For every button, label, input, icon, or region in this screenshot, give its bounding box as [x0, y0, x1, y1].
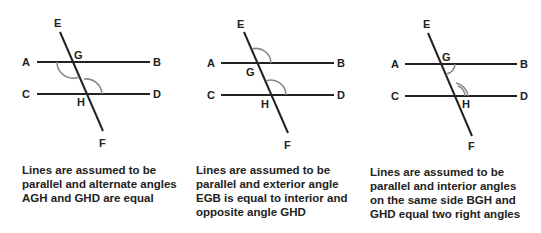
panel-interior: E A G B C H D F	[391, 18, 528, 152]
label-a: A	[22, 56, 30, 68]
label-c: C	[207, 89, 215, 101]
arc-angle-bgh	[446, 64, 455, 74]
caption-exterior: Lines are assumed to be parallel and ext…	[196, 163, 347, 219]
label-g: G	[74, 49, 83, 61]
label-f: F	[284, 139, 291, 151]
panel-exterior: E A G B C H D F	[207, 18, 345, 151]
label-f: F	[468, 140, 475, 152]
transversal-ef	[428, 33, 472, 136]
label-b: B	[520, 58, 528, 70]
label-h: H	[261, 98, 269, 110]
label-c: C	[391, 90, 399, 102]
label-a: A	[391, 58, 399, 70]
label-h: H	[77, 96, 85, 108]
label-g: G	[246, 66, 255, 78]
transversal-ef	[244, 32, 288, 133]
label-e: E	[237, 18, 244, 30]
label-b: B	[337, 57, 345, 69]
label-g: G	[442, 51, 451, 63]
label-d: D	[520, 90, 528, 102]
caption-alternate: Lines are assumed to be parallel and alt…	[22, 163, 177, 205]
label-e: E	[423, 18, 430, 30]
label-c: C	[22, 88, 30, 100]
transversal-ef	[60, 32, 103, 131]
label-a: A	[207, 57, 215, 69]
label-d: D	[337, 89, 345, 101]
label-d: D	[153, 88, 161, 100]
label-b: B	[153, 56, 161, 68]
label-h: H	[462, 98, 470, 110]
caption-interior: Lines are assumed to be parallel and int…	[370, 165, 520, 221]
panel-alternate: E A G B C H D F	[22, 17, 161, 149]
label-e: E	[54, 17, 61, 29]
label-f: F	[99, 137, 106, 149]
